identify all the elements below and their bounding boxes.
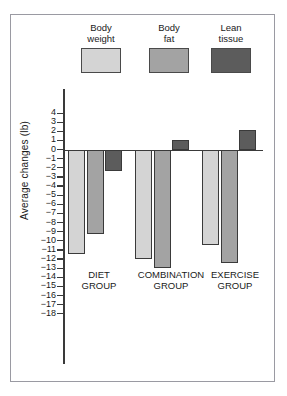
y-tick--17	[57, 304, 65, 305]
y-tick--10	[57, 240, 65, 241]
y-tick-0	[57, 149, 65, 150]
y-tick-4	[57, 113, 65, 114]
plot-area: Average changes (lb) 43210−1−2−3−4−5−6−7…	[11, 15, 276, 383]
bar-group2-series0	[202, 150, 219, 246]
y-tick-2	[57, 131, 65, 132]
y-tick-label-2: 2	[16, 126, 56, 135]
y-tick--6	[57, 204, 65, 205]
y-tick--9	[57, 231, 65, 232]
y-tick-1	[57, 140, 65, 141]
y-axis-tick-labels: 43210−1−2−3−4−5−6−7−8−9−10−11−12−13−14−1…	[11, 15, 56, 383]
y-tick-3	[57, 122, 65, 123]
bar-group2-series2	[239, 130, 256, 150]
chart-frame: Body weightBody fatLean tissue Average c…	[10, 14, 275, 382]
y-tick--12	[57, 258, 65, 259]
y-tick--16	[57, 295, 65, 296]
y-tick--4	[57, 185, 65, 186]
y-tick--1	[57, 158, 65, 159]
y-tick-label-3: 3	[16, 117, 56, 126]
y-tick-label--18: −18	[16, 309, 56, 318]
y-tick--11	[57, 249, 65, 250]
y-tick-label-4: 4	[16, 108, 56, 117]
y-tick--7	[57, 213, 65, 214]
group-label-2: EXERCISE GROUP	[193, 269, 277, 291]
y-tick--18	[57, 313, 65, 314]
bar-group0-series1	[87, 150, 104, 235]
y-tick--2	[57, 167, 65, 168]
y-tick-label-1: 1	[16, 135, 56, 144]
bar-group0-series0	[68, 150, 85, 254]
bar-group1-series0	[135, 150, 152, 259]
y-tick--8	[57, 222, 65, 223]
bar-group0-series2	[105, 150, 122, 172]
bar-group1-series2	[172, 140, 189, 150]
y-tick--5	[57, 195, 65, 196]
y-tick--3	[57, 176, 65, 177]
bar-group1-series1	[154, 150, 171, 269]
bar-group2-series1	[221, 150, 238, 263]
